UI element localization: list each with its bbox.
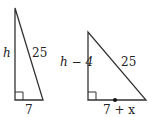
left-base-label: 7 — [25, 103, 33, 117]
left-hypotenuse-label: 25 — [32, 46, 47, 60]
midpoint-dot — [113, 98, 117, 102]
left-height-label: h — [3, 46, 11, 60]
right-angle-marker — [88, 92, 96, 100]
right-triangle-shape — [88, 32, 146, 100]
right-hypotenuse-label: 25 — [121, 55, 136, 69]
right-triangle: h − 4 25 7 + x — [60, 32, 146, 117]
right-angle-marker — [15, 92, 23, 100]
right-base-label: 7 + x — [103, 103, 135, 117]
left-triangle: h 25 7 — [3, 8, 47, 117]
triangles-diagram: h 25 7 h − 4 25 7 + x — [0, 0, 153, 117]
right-height-label: h − 4 — [60, 55, 93, 69]
